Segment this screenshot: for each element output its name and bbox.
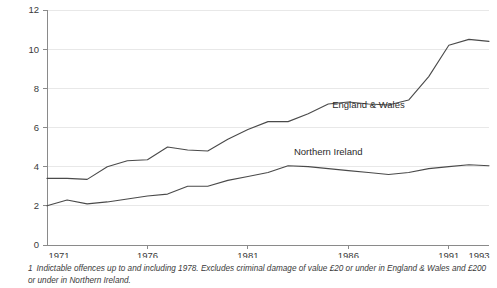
series-line-england-wales [47,39,489,179]
y-tick-label-2: 2 [34,200,39,211]
y-tick-label-6: 6 [34,122,39,133]
x-tick-label-1986: 1986 [338,250,359,258]
x-axis-ticks-group: 197119761981198619911993 [48,245,489,258]
series-label-england-wales: England & Wales [332,99,405,110]
gridlines-group [47,10,489,206]
chart-footnote: 1Indictable offences up to and including… [28,263,488,287]
footnote-marker: 1 [28,264,33,273]
series-label-northern-ireland: Northern Ireland [294,146,363,157]
y-tick-label-8: 8 [34,83,39,94]
series-line-northern-ireland [47,165,489,206]
chart-figure: 024681012 197119761981198619911993 Engla… [0,0,497,288]
y-tick-label-0: 0 [34,239,39,250]
series-group [47,39,489,205]
y-tick-label-4: 4 [34,161,39,172]
chart-plot-area: 024681012 197119761981198619911993 Engla… [0,0,497,258]
y-axis-ticks-group: 024681012 [28,4,47,250]
x-tick-label-1993: 1993 [468,250,489,258]
y-tick-label-10: 10 [28,44,39,55]
x-tick-label-1971: 1971 [48,250,69,258]
y-tick-label-12: 12 [28,4,39,15]
footnote-text: Indictable offences up to and including … [28,264,486,285]
x-tick-label-1976: 1976 [137,250,158,258]
line-chart: 024681012 197119761981198619911993 Engla… [0,0,497,258]
x-tick-label-1991: 1991 [438,250,459,258]
x-tick-label-1981: 1981 [237,250,258,258]
